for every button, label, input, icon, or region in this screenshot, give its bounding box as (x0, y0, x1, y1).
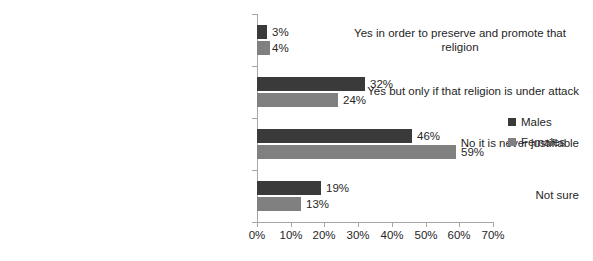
bar-females-under-attack (257, 93, 338, 107)
bar-males-never-justifiable (257, 129, 412, 143)
chart-legend: Males Females (508, 112, 565, 152)
category-label-not-sure: Not sure (341, 188, 579, 202)
legend-swatch-males-icon (508, 118, 516, 126)
x-axis-tick-label-70: 70% (473, 229, 513, 241)
bar-value-females-not-sure: 13% (306, 197, 329, 211)
bar-value-males-under-attack: 32% (370, 77, 393, 91)
bar-females-never-justifiable (257, 145, 456, 159)
x-axis-tick (291, 222, 292, 227)
legend-label-females: Females (521, 136, 565, 148)
y-axis-tick (252, 66, 257, 67)
x-axis-tick (324, 222, 325, 227)
legend-item-males: Males (508, 112, 565, 132)
bar-chart: 0% 10% 20% 30% 40% 50% 60% 70% Yes in or… (0, 0, 593, 261)
bar-value-females-preserve-promote: 4% (272, 41, 289, 55)
y-axis-tick (252, 118, 257, 119)
y-axis-tick (252, 170, 257, 171)
x-axis-tick (493, 222, 494, 227)
x-axis-tick (426, 222, 427, 227)
bar-females-not-sure (257, 197, 301, 211)
legend-label-males: Males (521, 116, 552, 128)
x-axis-tick (459, 222, 460, 227)
bar-females-preserve-promote (257, 41, 270, 55)
legend-item-females: Females (508, 132, 565, 152)
bar-value-males-preserve-promote: 3% (272, 25, 289, 39)
bar-males-under-attack (257, 77, 365, 91)
legend-swatch-females-icon (508, 138, 516, 146)
bar-value-females-under-attack: 24% (343, 93, 366, 107)
x-axis-tick (257, 222, 258, 227)
bar-males-not-sure (257, 181, 321, 195)
bar-value-males-not-sure: 19% (326, 181, 349, 195)
bar-males-preserve-promote (257, 25, 267, 39)
x-axis-tick (358, 222, 359, 227)
bar-value-males-never-justifiable: 46% (417, 129, 440, 143)
category-label-line-1: Yes in order to preserve and promote tha… (341, 26, 579, 40)
category-label-line-2: religion (341, 40, 579, 54)
y-axis-tick (252, 14, 257, 15)
bar-value-females-never-justifiable: 59% (461, 145, 484, 159)
x-axis-tick (392, 222, 393, 227)
category-label-preserve-promote: Yes in order to preserve and promote tha… (341, 26, 579, 54)
